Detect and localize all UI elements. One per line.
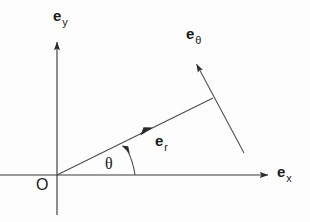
label-origin: O xyxy=(36,177,48,193)
theta-arc-arrowhead-icon xyxy=(122,146,130,154)
label-e-x-sub: x xyxy=(286,172,292,184)
label-e-r-sub: r xyxy=(164,141,168,153)
e-r-arrowhead-icon xyxy=(141,127,154,135)
polar-unit-vector-figure: ey ex eθ er θ O xyxy=(0,0,310,222)
label-e-theta-sub: θ xyxy=(195,34,201,46)
e-r-ray xyxy=(57,98,213,175)
label-e-x: ex xyxy=(277,164,291,180)
label-theta-angle: θ xyxy=(105,156,113,172)
theta-angle-arc xyxy=(128,151,136,176)
label-e-y-base: e xyxy=(53,7,61,24)
label-e-r: er xyxy=(155,133,167,149)
e-theta-ray xyxy=(197,64,245,153)
label-e-x-base: e xyxy=(277,163,285,180)
label-e-theta: eθ xyxy=(186,26,200,42)
label-e-y: ey xyxy=(53,8,67,24)
label-e-theta-base: e xyxy=(186,25,194,42)
label-e-y-sub: y xyxy=(62,16,68,28)
label-e-r-base: e xyxy=(155,132,163,149)
